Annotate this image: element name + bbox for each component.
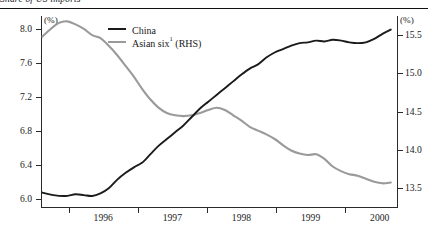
- chart-container: Share of US imports (%) (%) China Asian …: [0, 0, 428, 232]
- series-layer: [0, 0, 428, 232]
- series-line-asian-six: [42, 21, 390, 183]
